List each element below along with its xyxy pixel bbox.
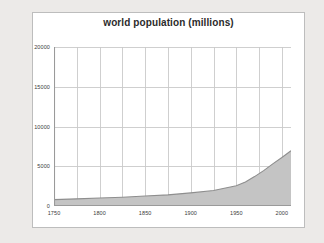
chart-title: world population (millions) [33,17,304,28]
chart-svg [54,47,291,206]
x-tick-label: 1800 [93,210,106,216]
x-tick-label: 2000 [276,210,289,216]
y-tick-label: 10000 [34,124,50,130]
y-tick-label: 15000 [34,84,50,90]
y-tick-label: 20000 [34,44,50,50]
screenshot-root: world population (millions) 050001000015… [0,0,324,243]
plot-area: 05000100001500020000 1750180018501900195… [54,47,291,206]
area-series-fill [54,151,291,206]
x-tick-label: 1950 [230,210,243,216]
x-tick-label: 1900 [184,210,197,216]
y-tick-label: 0 [47,203,50,209]
y-tick-label: 5000 [37,163,50,169]
x-tick-label: 1750 [48,210,61,216]
chart-frame: world population (millions) 050001000015… [32,12,305,228]
x-tick-label: 1850 [139,210,152,216]
